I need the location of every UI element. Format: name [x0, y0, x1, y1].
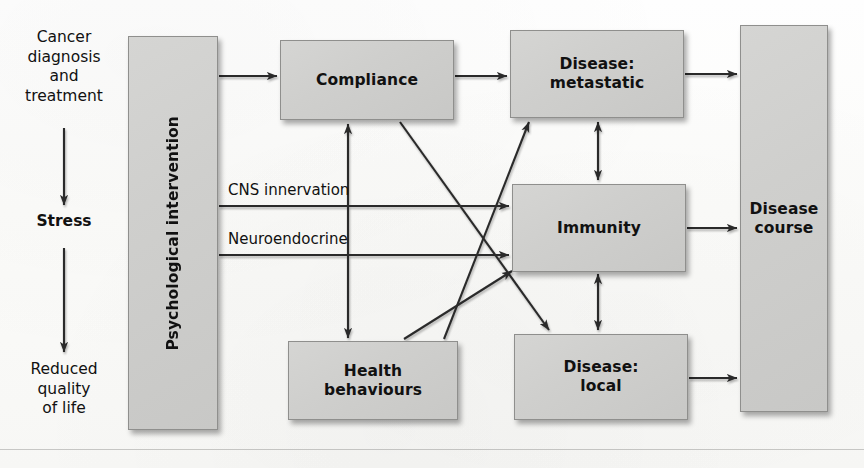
node-health-behaviours[interactable]: Health behaviours [288, 341, 458, 420]
node-disease-local-label: Disease: local [557, 358, 644, 396]
flow-step-reduced-quality-of-life: Reduced quality of life [4, 360, 124, 419]
node-immunity[interactable]: Immunity [512, 184, 686, 272]
node-disease-local[interactable]: Disease: local [514, 334, 688, 420]
flow-step-diagnosis: Cancer diagnosis and treatment [4, 28, 124, 106]
node-disease-metastatic[interactable]: Disease: metastatic [510, 30, 684, 118]
edge-health-behaviours-to-immunity [404, 271, 512, 339]
node-psychological-intervention[interactable]: Psychological intervention [128, 36, 218, 430]
node-disease-course[interactable]: Disease course [740, 25, 828, 412]
node-compliance-label: Compliance [310, 71, 424, 90]
edge-label-cns-innervation: CNS innervation [228, 182, 349, 199]
node-disease-metastatic-label: Disease: metastatic [544, 55, 651, 93]
node-immunity-label: Immunity [551, 219, 647, 238]
node-health-behaviours-label: Health behaviours [318, 362, 428, 400]
edge-label-neuroendocrine: Neuroendocrine [228, 231, 348, 248]
node-compliance[interactable]: Compliance [280, 40, 454, 120]
node-disease-course-label: Disease course [744, 200, 825, 238]
figure-canvas: Cancer diagnosis and treatment Stress Re… [0, 0, 864, 468]
flow-step-stress: Stress [4, 212, 124, 232]
node-psychological-intervention-label: Psychological intervention [164, 110, 183, 357]
page-bottom-rule [0, 449, 864, 450]
